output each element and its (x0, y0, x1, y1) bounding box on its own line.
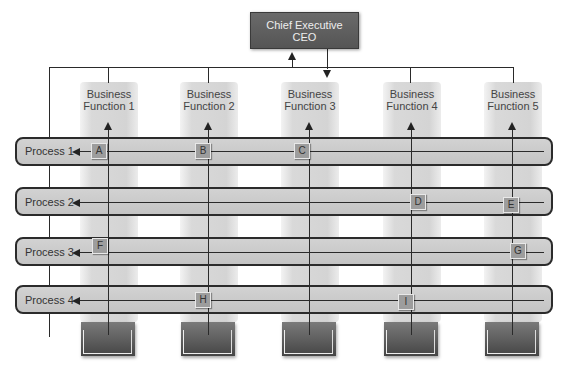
process-line-2 (80, 202, 544, 203)
ceo-down-stem (327, 47, 328, 69)
function-label-3: BusinessFunction 3 (281, 88, 339, 112)
arrow-up-icon (104, 122, 112, 130)
function-line-5 (512, 128, 513, 335)
function-label-line: Business (180, 88, 238, 100)
arrow-up-icon (288, 52, 296, 60)
badge-a: A (91, 143, 107, 159)
process-label-3: Process 3 (25, 246, 74, 258)
badge-e: E (503, 197, 519, 213)
ceo-box: Chief Executive CEO (250, 12, 359, 49)
process-label-2: Process 2 (25, 196, 74, 208)
function-label-1: BusinessFunction 1 (80, 88, 138, 112)
function-label-5: BusinessFunction 5 (484, 88, 542, 112)
function-label-line: Business (383, 88, 441, 100)
badge-h: H (195, 292, 211, 308)
badge-f: F (92, 238, 108, 254)
arrow-up-icon (305, 122, 313, 130)
org-drop-2 (208, 67, 209, 83)
process-label-4: Process 4 (25, 294, 74, 306)
function-line-3 (309, 128, 310, 335)
org-drop-5 (513, 67, 514, 83)
function-label-4: BusinessFunction 4 (383, 88, 441, 112)
arrow-down-icon (323, 70, 331, 78)
process-line-1 (80, 151, 544, 152)
ceo-title: Chief Executive (251, 19, 358, 31)
ceo-up-stem (292, 60, 293, 68)
badge-i: I (398, 294, 414, 310)
function-label-line: Business (484, 88, 542, 100)
function-label-line: Function 4 (383, 100, 441, 112)
ceo-subtitle: CEO (251, 31, 358, 43)
org-drop-1 (108, 67, 109, 83)
function-line-1 (108, 128, 109, 335)
process-line-4 (80, 300, 544, 301)
function-label-2: BusinessFunction 2 (180, 88, 238, 112)
process-label-1: Process 1 (25, 145, 74, 157)
arrow-up-icon (508, 122, 516, 130)
badge-d: D (410, 194, 426, 210)
arrow-up-icon (407, 122, 415, 130)
function-label-line: Function 1 (80, 100, 138, 112)
org-horizontal-line (49, 67, 514, 68)
function-label-line: Business (281, 88, 339, 100)
function-label-line: Function 3 (281, 100, 339, 112)
badge-c: C (294, 143, 310, 159)
function-label-line: Function 2 (180, 100, 238, 112)
arrow-up-icon (204, 122, 212, 130)
function-label-line: Business (80, 88, 138, 100)
badge-b: B (195, 143, 211, 159)
process-line-3 (80, 252, 544, 253)
function-label-line: Function 5 (484, 100, 542, 112)
org-drop-4 (410, 67, 411, 83)
badge-g: G (510, 243, 526, 259)
